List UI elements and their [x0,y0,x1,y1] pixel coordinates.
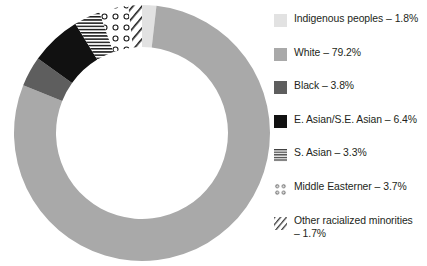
swatch-pattern-horizontal-lines [274,149,287,162]
swatch-s-asian [274,148,287,161]
swatch-other-racialized-minorities [274,216,287,229]
legend-item-black[interactable]: Black – 3.8% [274,79,427,113]
swatch-pattern-diagonal-lines [274,217,287,230]
legend-label-e-asian-se-asian: E. Asian/S.E. Asian – 6.4% [294,113,417,126]
legend-label-indigenous-peoples: Indigenous peoples – 1.8% [294,12,418,25]
legend-item-e-asian-se-asian[interactable]: E. Asian/S.E. Asian – 6.4% [274,113,427,147]
donut-chart-figure: Indigenous peoples – 1.8% White – 79.2% … [0,0,427,266]
legend-label-other-racialized-minorities: Other racialized minorities – 1.7% [294,214,413,240]
chart-area [0,0,272,266]
legend-item-s-asian[interactable]: S. Asian – 3.3% [274,146,427,180]
legend-label-middle-easterner: Middle Easterner – 3.7% [294,180,407,193]
chart-legend: Indigenous peoples – 1.8% White – 79.2% … [272,0,427,266]
legend-item-middle-easterner[interactable]: Middle Easterner – 3.7% [274,180,427,214]
swatch-indigenous-peoples [274,14,287,27]
swatch-white [274,48,287,61]
swatch-pattern-dots [274,183,287,196]
legend-label-s-asian: S. Asian – 3.3% [294,146,367,159]
legend-item-indigenous-peoples[interactable]: Indigenous peoples – 1.8% [274,12,427,46]
legend-item-white[interactable]: White – 79.2% [274,46,427,80]
legend-label-white: White – 79.2% [294,46,361,59]
swatch-black [274,81,287,94]
legend-item-other-racialized-minorities[interactable]: Other racialized minorities – 1.7% [274,214,427,258]
swatch-e-asian-se-asian [274,115,287,128]
legend-label-black: Black – 3.8% [294,79,354,92]
donut-chart [0,0,272,266]
donut-slices [14,5,270,261]
swatch-middle-easterner [274,182,287,195]
